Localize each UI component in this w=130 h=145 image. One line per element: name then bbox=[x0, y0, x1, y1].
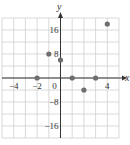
data-point bbox=[70, 75, 75, 80]
axes: x y bbox=[2, 1, 130, 138]
y-axis-label: y bbox=[56, 1, 62, 12]
x-tick-label: −4 bbox=[9, 81, 19, 91]
data-point bbox=[46, 51, 51, 56]
x-axis-label: x bbox=[124, 72, 130, 83]
y-tick-label: 8 bbox=[54, 49, 59, 59]
data-point bbox=[58, 57, 63, 62]
y-axis-arrow-icon bbox=[58, 12, 63, 18]
x-tick-label: 4 bbox=[105, 81, 110, 91]
x-tick-label: 0 bbox=[52, 81, 57, 91]
y-tick-label: 16 bbox=[50, 25, 60, 35]
x-tick-label: −2 bbox=[32, 81, 42, 91]
data-point bbox=[93, 75, 98, 80]
data-point bbox=[105, 21, 110, 26]
data-point bbox=[81, 87, 86, 92]
data-point bbox=[35, 75, 40, 80]
scatter-chart: x y −4−204168−8−16 bbox=[0, 0, 130, 145]
y-tick-label: −8 bbox=[49, 97, 59, 107]
y-tick-label: −16 bbox=[44, 121, 59, 131]
